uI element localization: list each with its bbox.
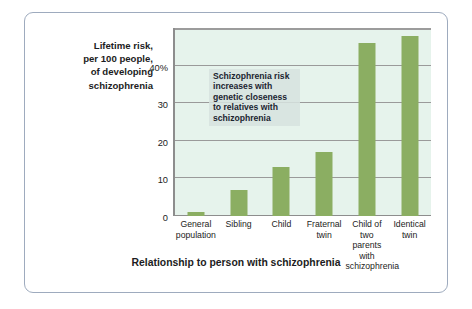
figure-frame: Lifetime risk,per 100 people,of developi…: [24, 12, 448, 293]
bar-slot-3: [303, 28, 346, 216]
x-axis-ticks: General populationSiblingChildFraternal …: [175, 216, 432, 238]
bar-child[interactable]: [273, 167, 290, 216]
x-tick-label-0: General population: [175, 219, 218, 240]
x-tick-label-5: Identical twin: [388, 219, 431, 240]
x-tick-label-3: Fraternal twin: [303, 219, 346, 240]
bar-slot-5: [388, 28, 431, 216]
bar-identical-twin[interactable]: [401, 36, 418, 216]
bar-sibling[interactable]: [230, 190, 247, 216]
bar-fraternal-twin[interactable]: [316, 152, 333, 216]
y-axis-caption-line-1: per 100 people,: [31, 52, 153, 65]
y-tick-label-30: 30: [158, 100, 168, 110]
x-axis-title: Relationship to person with schizophreni…: [25, 257, 447, 268]
y-tick-label-10: 10: [158, 175, 168, 185]
y-axis-caption-line-3: schizophrenia: [31, 79, 153, 92]
y-axis-caption-line-0: Lifetime risk,: [31, 39, 153, 52]
x-tick-label-2: Child: [260, 219, 303, 230]
y-tick-label-40: 40%: [149, 63, 168, 73]
x-tick-label-1: Sibling: [217, 219, 260, 230]
bar-slot-4: [346, 28, 389, 216]
chart-annotation: Schizophrenia risk increases with geneti…: [209, 69, 300, 126]
y-axis-caption-line-2: of developing: [31, 65, 153, 78]
plot-wrapper: 010203040% General populationSiblingChil…: [173, 28, 431, 238]
y-axis-caption: Lifetime risk,per 100 people,of developi…: [31, 39, 153, 92]
bar-child-of-two-parents-with-schizophrenia[interactable]: [358, 43, 375, 216]
y-tick-label-20: 20: [158, 138, 168, 148]
y-tick-label-0: 0: [163, 213, 168, 223]
